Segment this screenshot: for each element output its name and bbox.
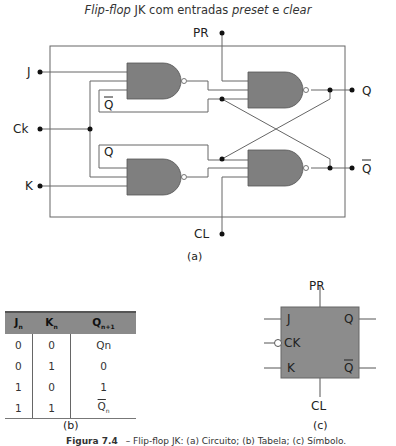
nand-gate-bottom-right	[248, 150, 303, 186]
pr-label: PR	[193, 26, 209, 40]
junction-dot	[220, 97, 225, 102]
q-feedback-label: Q	[104, 145, 113, 159]
cell: 1	[71, 376, 136, 397]
symbol-cl-label: CL	[311, 399, 326, 413]
table-row: 1 1 Qn	[5, 397, 136, 419]
inversion-bubble	[304, 166, 309, 171]
q-bar-output-label: Q	[362, 162, 371, 176]
symbol-ck-label: CK	[284, 336, 301, 350]
symbol-q-label: Q	[344, 312, 353, 326]
symbol-q-bar-label: Q	[344, 361, 353, 375]
pr-terminal	[220, 31, 225, 36]
table-row: 0 1 0	[5, 355, 136, 376]
nand-gate-bottom-left	[127, 159, 181, 195]
cell: Qn	[71, 334, 136, 355]
header-kn: Kn	[32, 312, 71, 334]
junction-dot	[88, 127, 93, 132]
symbol-pr-label: PR	[309, 279, 325, 293]
cell-q-bar-n: Qn	[71, 397, 136, 419]
table-header-row: Jn Kn Qn+1	[5, 312, 136, 334]
table-row: 1 0 1	[5, 376, 136, 397]
figure-caption: Figura 7.4– Flip-flop JK: (a) Circuito; …	[66, 436, 346, 446]
cl-label: CL	[194, 227, 209, 241]
caption-a: (a)	[187, 250, 202, 263]
cell: 0	[32, 334, 71, 355]
nand-gate-top-left	[127, 63, 181, 99]
junction-dot	[220, 157, 225, 162]
cell: 1	[5, 376, 32, 397]
cell: 0	[32, 376, 71, 397]
k-label: K	[25, 179, 34, 193]
j-label: J	[26, 65, 31, 79]
caption-c: (c)	[313, 419, 328, 432]
cell: 1	[5, 397, 32, 419]
cell: 1	[32, 397, 71, 419]
header-jn: Jn	[5, 312, 32, 334]
figure-caption-text: – Flip-flop JK: (a) Circuito; (b) Tabela…	[126, 436, 346, 446]
jk-symbol: PR CL J CK K Q Q	[264, 279, 376, 413]
table-row: 0 0 Qn	[5, 334, 136, 355]
junction-dot	[328, 88, 333, 93]
q-terminal	[350, 88, 355, 93]
caption-b: (b)	[63, 419, 79, 432]
ck-terminal	[38, 127, 43, 132]
figure-number: Figura 7.4	[66, 436, 118, 446]
q-bar-feedback-label: Q	[104, 98, 113, 112]
header-qn1: Qn+1	[71, 312, 136, 334]
q-bar-terminal	[350, 166, 355, 171]
inversion-bubble	[182, 175, 187, 180]
q-output-label: Q	[362, 84, 371, 98]
junction-dot	[328, 166, 333, 171]
cell: 0	[71, 355, 136, 376]
ck-label: Ck	[13, 122, 28, 136]
inversion-bubble	[182, 79, 187, 84]
cl-terminal	[220, 232, 225, 237]
nand-gate-top-right	[248, 72, 303, 108]
cell: 0	[5, 334, 32, 355]
symbol-j-label: J	[286, 312, 291, 326]
symbol-k-label: K	[287, 361, 296, 375]
truth-table: Jn Kn Qn+1 0 0 Qn 0 1 0 1 0 1 1 1 Qn	[5, 311, 136, 419]
k-terminal	[38, 184, 43, 189]
cell: 0	[5, 355, 32, 376]
clock-inversion-bubble	[275, 340, 282, 347]
inversion-bubble	[304, 88, 309, 93]
cell: 1	[32, 355, 71, 376]
j-terminal	[38, 70, 43, 75]
